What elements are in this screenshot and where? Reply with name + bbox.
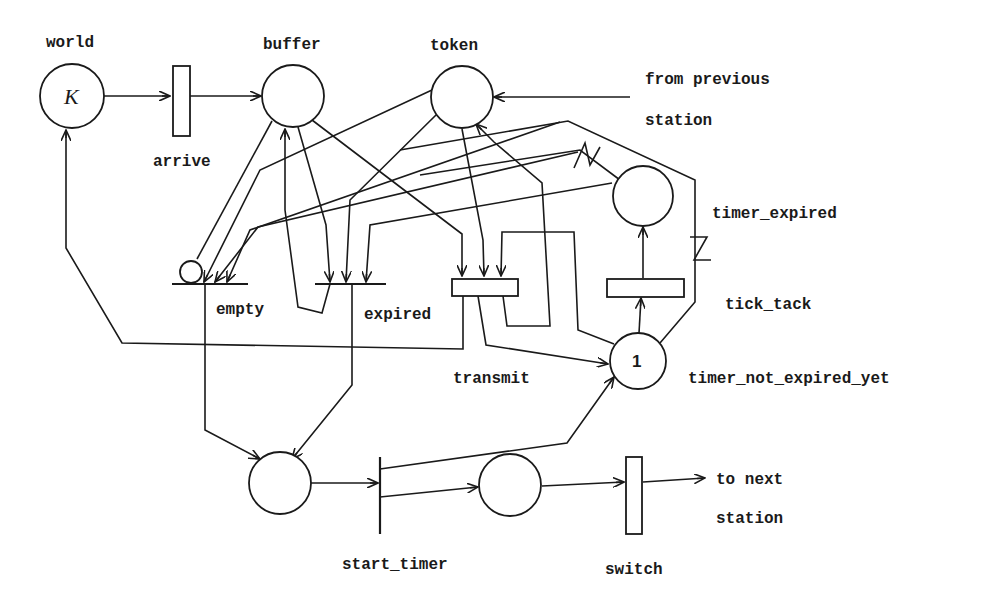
place-wait[interactable]: [249, 452, 311, 514]
label-expired: expired: [364, 306, 431, 324]
marking-k: K: [63, 84, 80, 109]
inhibitor-circle-icon: [180, 261, 202, 283]
arc-timer-empty: [215, 152, 578, 282]
arc-expired-buffer: [285, 129, 330, 313]
label-switch: switch: [605, 561, 663, 579]
arc-token-transmit: [462, 129, 484, 276]
marking-one: 1: [632, 352, 641, 371]
label-empty: empty: [216, 301, 264, 319]
transition-arrive[interactable]: [173, 66, 190, 136]
arc-send-switch: [542, 482, 624, 486]
petri-net-diagram: K 1 world buffer token from previous sta…: [0, 0, 981, 606]
arc-token-expired: [346, 115, 436, 282]
arc-timer-ticktack: [639, 298, 641, 333]
label-to-next-station: station: [716, 510, 783, 528]
transition-transmit[interactable]: [452, 279, 518, 296]
label-arrive: arrive: [153, 153, 211, 171]
label-to-next: to next: [716, 471, 783, 489]
arc-transmit-timer: [478, 296, 608, 364]
transition-switch[interactable]: [626, 457, 642, 534]
arc-switch-next: [643, 478, 705, 482]
label-from-previous: from previous: [645, 71, 770, 89]
arc-starttimer-send: [380, 487, 478, 497]
label-timer-not-expired-yet: timer_not_expired_yet: [688, 370, 890, 388]
place-send[interactable]: [479, 454, 541, 516]
place-token[interactable]: [431, 66, 493, 128]
label-world: world: [46, 34, 94, 52]
arc-starttimer-timer: [380, 377, 614, 469]
label-token: token: [430, 37, 478, 55]
label-buffer: buffer: [263, 36, 321, 54]
transition-tick-tack[interactable]: [607, 279, 684, 297]
place-timer-not-expired-yet[interactable]: 1: [610, 333, 666, 389]
break-mark-z-icon: [690, 237, 711, 260]
label-tick-tack: tick_tack: [725, 296, 812, 314]
places: K 1: [40, 64, 673, 516]
label-from-previous-station: station: [645, 112, 712, 130]
arc-timer-expired-empty: [227, 122, 560, 282]
label-start-timer: start_timer: [342, 556, 448, 574]
place-timer-expired[interactable]: [613, 166, 673, 226]
transitions: [172, 66, 684, 534]
arc-buffer-empty-inhibitor: [197, 121, 272, 259]
place-buffer[interactable]: [262, 65, 324, 127]
place-world[interactable]: K: [40, 64, 104, 128]
label-transmit: transmit: [453, 370, 530, 388]
label-timer-expired: timer_expired: [712, 205, 837, 223]
